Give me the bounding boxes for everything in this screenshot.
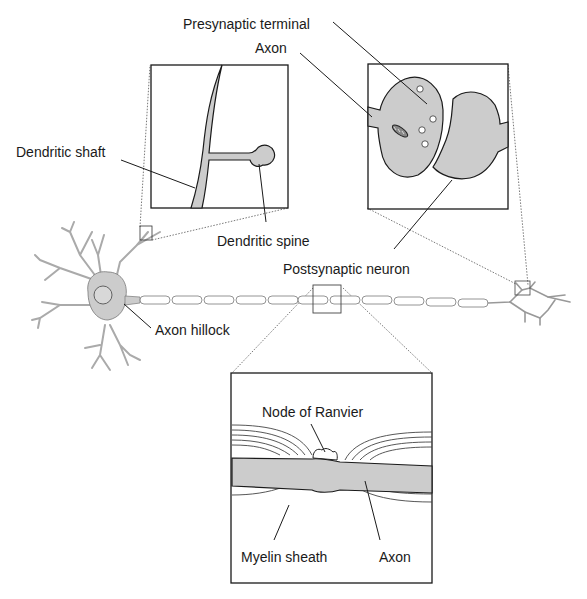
myelin-segments — [140, 296, 488, 307]
label-axon-bottom: Axon — [379, 549, 411, 565]
label-dendritic-shaft: Dendritic shaft — [16, 144, 106, 160]
synapse-inset — [368, 64, 508, 209]
label-postsynaptic-neuron: Postsynaptic neuron — [283, 261, 410, 277]
label-axon-top: Axon — [255, 40, 287, 56]
label-presynaptic-terminal: Presynaptic terminal — [183, 16, 310, 32]
label-dendritic-spine: Dendritic spine — [217, 233, 310, 249]
label-myelin-sheath: Myelin sheath — [241, 549, 327, 565]
label-axon-hillock: Axon hillock — [155, 322, 231, 338]
neuron-diagram: Presynaptic terminal Axon Dendritic shaf… — [0, 0, 587, 599]
dendrite-inset — [151, 65, 288, 208]
label-node-of-ranvier: Node of Ranvier — [262, 404, 364, 420]
